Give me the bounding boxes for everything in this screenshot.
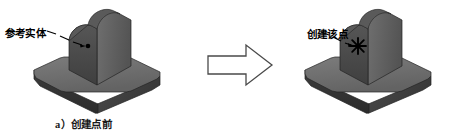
arrow-outline xyxy=(208,45,272,85)
panel-after: 创建该点 b）创建点后 xyxy=(271,0,471,134)
solid-model-after xyxy=(271,0,471,134)
reference-point-dot xyxy=(86,44,91,49)
leader-label-reference-entity: 参考实体 xyxy=(5,25,46,40)
leader-label-create-point: 创建该点 xyxy=(307,26,348,41)
created-point-center xyxy=(356,44,359,47)
right-block-arrow-icon xyxy=(206,42,274,88)
solid-model-before xyxy=(0,0,200,134)
figure-canvas: 参考实体 a）创建点前 xyxy=(0,0,471,134)
panel-before: 参考实体 a）创建点前 xyxy=(0,0,200,134)
caption-before: a）创建点前 xyxy=(55,116,112,131)
